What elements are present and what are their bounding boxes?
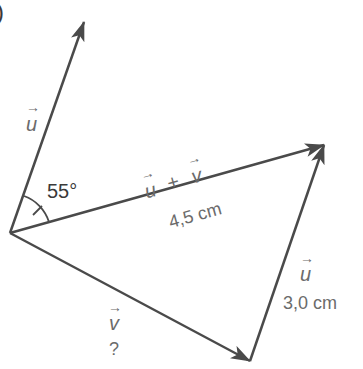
angle-label: 55° bbox=[47, 180, 77, 202]
svg-text:u: u bbox=[300, 263, 311, 285]
svg-text:3,0 cm: 3,0 cm bbox=[283, 293, 337, 313]
svg-text:u: u bbox=[142, 178, 159, 202]
svg-text:v: v bbox=[109, 312, 120, 334]
label-u-left: → u bbox=[26, 99, 40, 135]
label-u-right: → u 3,0 cm bbox=[283, 250, 337, 313]
svg-text:+: + bbox=[165, 170, 182, 194]
svg-text:4,5 cm: 4,5 cm bbox=[166, 198, 223, 232]
label-v: → v ? bbox=[108, 299, 122, 359]
angle-arc bbox=[24, 196, 49, 222]
svg-text:u: u bbox=[26, 113, 37, 135]
vector-diagram: ) 55° → u → u + → v 4,5 cm → u 3,0 cm → … bbox=[0, 0, 363, 369]
corner-label: ) bbox=[0, 0, 4, 25]
angle-tick bbox=[33, 206, 42, 215]
label-sum: → u + → v 4,5 cm bbox=[138, 147, 224, 236]
svg-text:?: ? bbox=[109, 339, 119, 359]
vector-v bbox=[10, 233, 250, 361]
svg-text:v: v bbox=[189, 163, 206, 187]
